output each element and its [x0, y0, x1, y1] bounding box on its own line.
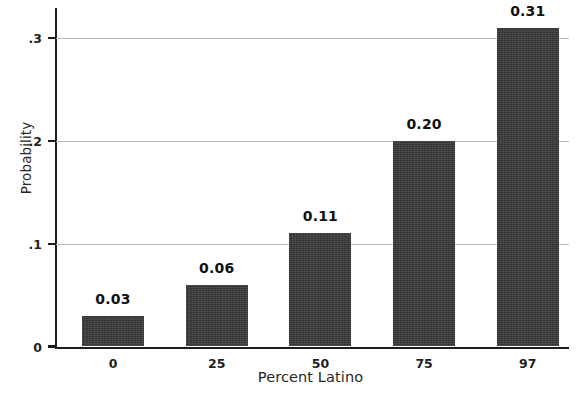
- y-tick-mark: [48, 140, 56, 142]
- bar-value-label: 0.31: [488, 3, 568, 19]
- y-tick-label: .2: [6, 133, 42, 148]
- y-tick-mark: [48, 345, 56, 347]
- y-tick-label: .3: [6, 30, 42, 45]
- bar: [82, 316, 144, 347]
- bar: [289, 233, 351, 346]
- y-axis-title: Probability: [18, 88, 34, 228]
- y-tick-label: .1: [6, 236, 42, 251]
- bar: [186, 285, 248, 347]
- bar-value-label: 0.03: [73, 291, 153, 307]
- bar: [393, 141, 455, 347]
- y-tick-mark: [48, 37, 56, 39]
- y-tick-label: 0: [6, 339, 42, 354]
- bar-chart: Probability 0.1.2.3 025507597 Percent La…: [0, 0, 579, 393]
- bar-value-label: 0.20: [384, 116, 464, 132]
- y-tick-mark: [48, 243, 56, 245]
- x-axis-title: Percent Latino: [0, 369, 579, 385]
- bar-value-label: 0.11: [280, 208, 360, 224]
- bar-value-label: 0.06: [177, 260, 257, 276]
- bar: [497, 28, 559, 347]
